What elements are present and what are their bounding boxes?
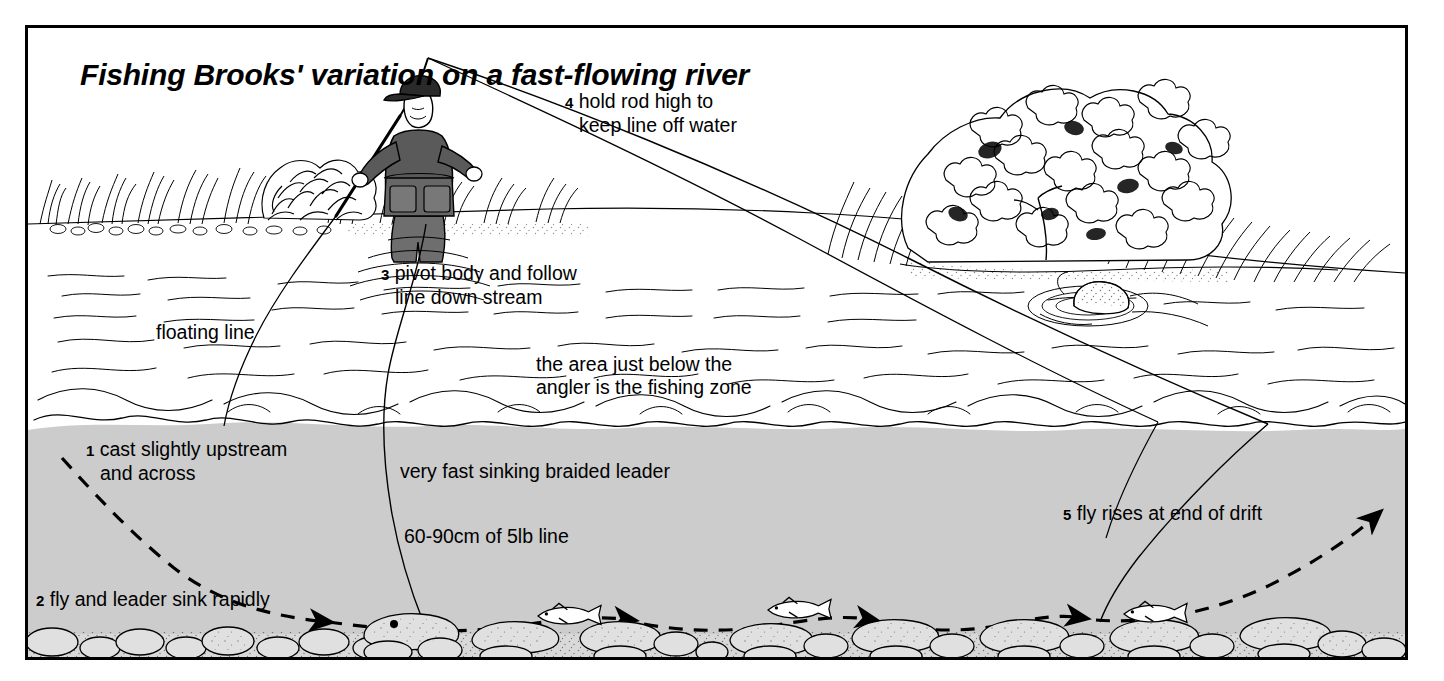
left-bank-vegetation — [40, 160, 588, 236]
step-5-line1: fly rises at end of drift — [1077, 502, 1262, 524]
label-step-5: 5 fly rises at end of drift — [1063, 502, 1262, 526]
fishing-zone-line2: angler is the fishing zone — [536, 376, 752, 398]
step-5-number: 5 — [1063, 506, 1071, 523]
label-fishing-zone: the area just below the angler is the fi… — [536, 353, 752, 399]
label-braided-leader: very fast sinking braided leader — [400, 460, 670, 483]
fishing-zone-line1: the area just below the — [536, 353, 732, 375]
label-step-4: 4 hold rod high to keep line off water — [565, 90, 737, 137]
label-floating-line: floating line — [156, 321, 255, 344]
step-1-line1: cast slightly upstream — [100, 438, 288, 460]
fly — [390, 620, 398, 628]
step-4-line2: keep line off water — [579, 114, 737, 137]
step-1-line2: and across — [100, 462, 195, 485]
step-4-number: 4 — [565, 94, 573, 111]
label-step-2: 2 fly and leader sink rapidly — [36, 588, 270, 612]
step-1-number: 1 — [86, 442, 94, 459]
label-step-1: 1 cast slightly upstream and across — [86, 438, 287, 485]
step-2-number: 2 — [36, 592, 44, 609]
step-2-line1: fly and leader sink rapidly — [50, 588, 270, 610]
page-title: Fishing Brooks' variation on a fast-flow… — [80, 58, 749, 92]
water-surface — [34, 275, 1405, 427]
step-3-number: 3 — [381, 266, 389, 283]
step-3-line1: pivot body and follow — [395, 262, 577, 284]
step-4-line1: hold rod high to — [579, 90, 713, 112]
step-3-line2: line down stream — [395, 286, 542, 309]
label-tippet: 60-90cm of 5lb line — [404, 525, 569, 548]
label-step-3: 3 pivot body and follow line down stream — [381, 262, 577, 309]
figure-frame: Fishing Brooks' variation on a fast-flow… — [25, 25, 1408, 660]
illustration-canvas: Fishing Brooks' variation on a fast-flow… — [0, 0, 1444, 681]
